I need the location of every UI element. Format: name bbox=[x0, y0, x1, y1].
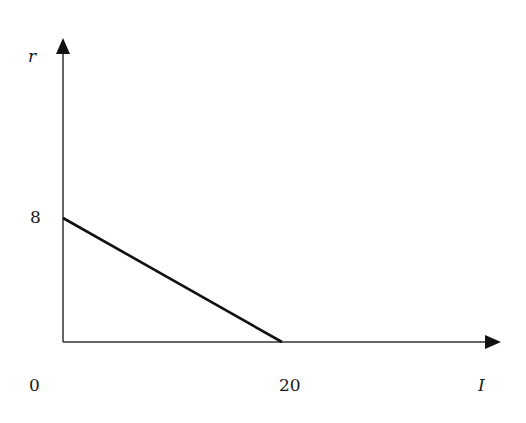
y-axis-arrow-icon bbox=[56, 38, 70, 54]
y-tick-label-8: 8 bbox=[30, 207, 41, 227]
x-tick-label-20: 20 bbox=[279, 375, 301, 395]
x-axis-label: I bbox=[477, 375, 485, 395]
y-axis-label: r bbox=[28, 46, 37, 66]
data-line bbox=[63, 218, 282, 342]
x-axis-arrow-icon bbox=[485, 335, 501, 349]
chart-canvas: r 8 0 20 I bbox=[0, 0, 526, 423]
origin-label: 0 bbox=[29, 375, 40, 395]
